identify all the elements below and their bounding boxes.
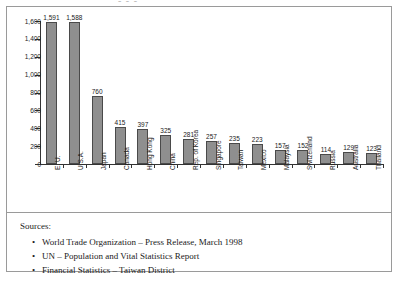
y-axis-tick-label-text: 1,200 [17,53,41,60]
x-axis-category-label: Rep. of Korea [192,130,199,170]
bar-item: 1,588 [69,21,80,164]
x-axis-category-label: Mexico [260,149,267,170]
y-axis-tick-label-text: 0 [17,161,41,168]
x-axis-tick [200,164,201,168]
y-axis-tick-label: 0 [7,161,41,168]
sources-list: •World Trade Organization – Press Releas… [20,235,380,277]
y-axis-tick-label: 600 [7,107,41,114]
x-axis-tick [63,164,64,168]
x-axis-tick [131,164,132,168]
bar [69,22,80,164]
y-axis-tick-label: 1,400 [7,35,41,42]
x-axis-tick [223,164,224,168]
x-axis-category-label: Hong Kong [146,137,153,170]
bar-chart: 1,6001,4001,2001,0008006004002000 1,5911… [7,7,391,205]
x-axis-tick [154,164,155,168]
x-axis-tick [246,164,247,168]
y-axis-tick-label: 800 [7,89,41,96]
x-axis-category-label: Canada [123,147,130,170]
bar-value-label: 397 [137,121,148,128]
bar-value-label: 415 [115,119,126,126]
x-axis-tick [86,164,87,168]
x-axis-tick [314,164,315,168]
y-axis-tick-label-text: 200 [17,143,41,150]
y-axis-tick-label: 200 [7,143,41,150]
x-axis-category-label: Singapore [215,140,222,170]
bar-item: 129 [343,21,354,164]
bar-item: 235 [229,21,240,164]
bar-item: 415 [115,21,126,164]
bar-item: 114 [320,21,331,164]
y-axis-tick-label-text: 1,000 [17,71,41,78]
x-axis-tick [269,164,270,168]
bar-item: 157 [275,21,286,164]
bar-value-label: 257 [206,133,217,140]
sources-block: Sources: •World Trade Organization – Pre… [20,219,380,277]
y-axis-tick-label-text: 1,400 [17,35,41,42]
y-axis-tick-label: 1,600 [7,18,41,25]
x-axis-tick [383,164,384,168]
section-divider [7,212,391,213]
x-axis-category-label: Russia [329,150,336,170]
figure-frame: 1,6001,4001,2001,0008006004002000 1,5911… [6,6,392,272]
source-item: •Financial Statistics – Taiwan District [20,263,380,277]
source-item-text: World Trade Organization – Press Release… [42,235,380,249]
y-axis-tick-label-text: 600 [17,107,41,114]
y-axis-tick-label-text: 1,600 [17,18,41,25]
source-item-text: Financial Statistics – Taiwan District [42,263,380,277]
source-bullet-icon: • [32,263,42,277]
source-bullet-icon: • [32,235,42,249]
bar-item: 223 [252,21,263,164]
bar-value-label: 235 [229,135,240,142]
bar-value-label: 325 [160,127,171,134]
x-axis-category-label: Australia [352,145,359,170]
x-axis-category-label: Japan [100,152,107,170]
bar-item: 760 [92,21,103,164]
sources-heading: Sources: [20,219,380,233]
y-axis-tick-label-text: 800 [17,89,41,96]
x-axis-tick [109,164,110,168]
bar-value-label: 223 [252,136,263,143]
source-item: •World Trade Organization – Press Releas… [20,235,380,249]
x-axis-tick [337,164,338,168]
x-axis-category-label: Taiwan [237,150,244,170]
x-axis-tick [177,164,178,168]
x-axis-tick [292,164,293,168]
bar-item: 123 [366,21,377,164]
x-axis-category-label: China [169,153,176,170]
bar-item: 1,591 [46,21,57,164]
x-axis-category-label: Thailand [375,145,382,170]
x-axis-category-label: U.S.A. [77,151,84,170]
y-axis-tick-label: 400 [7,125,41,132]
y-axis-tick-label: 1,000 [7,71,41,78]
y-axis-tick-label: 1,200 [7,53,41,60]
bar [46,22,57,164]
bar-value-label: 760 [92,88,103,95]
bar-value-label: 1,591 [43,14,59,21]
bar-item: 325 [160,21,171,164]
x-axis-category-label: E. U. [54,156,61,170]
x-axis-category-label: Switzerland [306,136,313,170]
x-axis-tick [360,164,361,168]
y-axis-tick-label-text: 400 [17,125,41,132]
source-bullet-icon: • [32,249,42,263]
source-item-text: UN – Population and Vital Statistics Rep… [42,249,380,263]
source-item: •UN – Population and Vital Statistics Re… [20,249,380,263]
bar-value-label: 1,588 [66,14,82,21]
x-axis-category-label: Malaysia [283,144,290,170]
